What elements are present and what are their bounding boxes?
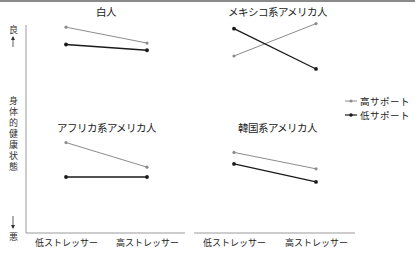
y-axis-title: 身体的健康状態 (9, 95, 18, 172)
data-point-high-support (314, 167, 317, 170)
marker-high-icon (349, 99, 352, 102)
data-point-high-support (145, 166, 148, 169)
data-point-high-support (314, 22, 317, 25)
data-point-high-support (64, 26, 67, 29)
y-axis-title-char: 身 (9, 95, 18, 106)
data-point-low-support (145, 48, 149, 52)
legend: 高サポート 低サポート (345, 96, 410, 121)
y-axis-title-char: 的 (9, 117, 18, 128)
data-point-low-support (64, 175, 68, 179)
panel-3 (232, 151, 318, 184)
arrow-up-head-icon (11, 36, 15, 40)
y-top-label: 良 (9, 24, 18, 35)
panel-title-korean: 韓国系アメリカ人 (238, 122, 318, 134)
y-axis-title-char: 態 (9, 161, 18, 172)
series-line-high-support (234, 24, 316, 56)
y-bottom-label: 悪 (9, 232, 18, 242)
y-axis-title-char: 体 (9, 106, 18, 117)
y-axis-title-char: 健 (9, 128, 18, 139)
data-point-high-support (145, 41, 148, 44)
panel-2 (64, 141, 149, 179)
x-tick-low-left: 低ストレッサー (35, 237, 98, 248)
legend-label-high-support: 高サポート (360, 96, 410, 107)
data-point-low-support (232, 27, 236, 31)
arrow-down-head-icon (11, 225, 15, 229)
legend-label-low-support: 低サポート (360, 110, 410, 121)
y-axis-title-char: 康 (9, 139, 18, 150)
data-point-low-support (314, 67, 318, 71)
x-tick-low-right: 低ストレッサー (203, 237, 266, 248)
chart-area: 良 身体的健康状態 悪 白人 メキシコ系アメリカ人 アフリカ系アメリカ人 韓国系… (0, 0, 415, 258)
data-point-low-support (232, 162, 236, 166)
panel-title-mexican: メキシコ系アメリカ人 (228, 6, 328, 18)
series-line-high-support (66, 27, 147, 43)
series-line-low-support (66, 44, 147, 50)
data-point-low-support (145, 175, 149, 179)
panel-0 (64, 26, 149, 53)
series-line-low-support (234, 29, 316, 69)
x-tick-high-left: 高ストレッサー (116, 237, 179, 248)
data-point-high-support (232, 54, 235, 57)
data-point-high-support (232, 151, 235, 154)
panel-1 (232, 22, 318, 71)
data-point-low-support (64, 43, 68, 47)
series-layer (64, 22, 318, 184)
y-axis-title-char: 状 (9, 150, 18, 161)
legend-item-high-support: 高サポート (345, 96, 410, 107)
x-tick-high-right: 高ストレッサー (285, 237, 348, 248)
series-line-high-support (66, 143, 147, 168)
panel-title-african: アフリカ系アメリカ人 (57, 122, 157, 134)
legend-item-low-support: 低サポート (345, 110, 410, 121)
data-point-high-support (64, 141, 67, 144)
marker-low-icon (349, 113, 353, 117)
panel-title-white: 白人 (96, 6, 117, 18)
data-point-low-support (314, 180, 318, 184)
